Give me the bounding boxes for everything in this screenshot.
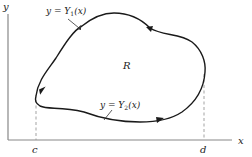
lower-curve-label: y = Y2(x)	[99, 100, 141, 111]
arrow-top-icon	[146, 26, 153, 32]
lower-curve-label-rhs: (x)	[128, 100, 141, 110]
upper-curve-label: y = Y1(x)	[45, 6, 87, 17]
region-diagram: y x c d R y = Y1(x) y = Y2(x)	[0, 0, 252, 157]
x-axis-label: x	[238, 135, 244, 146]
upper-curve-label-lhs: y = Y	[45, 6, 71, 16]
right-bound-label: d	[200, 144, 206, 155]
left-bound-label: c	[32, 144, 38, 155]
upper-curve-leader-line	[68, 19, 79, 28]
region-label: R	[122, 60, 131, 71]
upper-curve-label-rhs: (x)	[74, 6, 87, 16]
arrow-left-icon	[38, 86, 45, 96]
lower-curve-label-lhs: y = Y	[99, 100, 125, 110]
diagram-canvas: y x c d R y = Y1(x) y = Y2(x)	[0, 0, 252, 157]
y-axis-label: y	[2, 1, 9, 12]
